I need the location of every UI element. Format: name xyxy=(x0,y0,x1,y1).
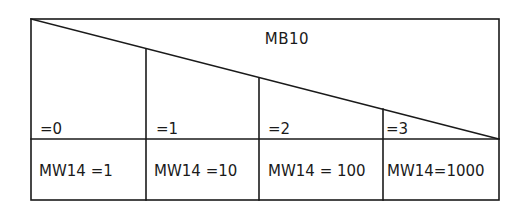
result-cell-3: MW14=1000 xyxy=(387,162,485,180)
result-cell-0: MW14 =1 xyxy=(39,162,113,180)
result-cell-1: MW14 =10 xyxy=(154,162,237,180)
condition-label-0: =0 xyxy=(40,120,62,138)
condition-label-2: =2 xyxy=(268,120,290,138)
diagram-title: MB10 xyxy=(265,30,309,48)
result-cell-2: MW14 = 100 xyxy=(268,162,366,180)
mb10-case-diagram: MB10 =0 =1 =2 =3 MW14 =1 MW14 =10 MW14 =… xyxy=(0,0,525,223)
condition-label-1: =1 xyxy=(156,120,178,138)
condition-label-3: =3 xyxy=(386,120,408,138)
